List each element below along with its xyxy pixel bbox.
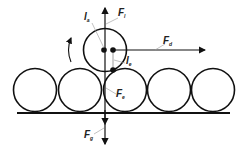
pivot-contact-dot bbox=[110, 67, 116, 73]
label-lever-arm-a: la bbox=[84, 11, 90, 23]
bed-particle bbox=[104, 69, 147, 112]
bed-particle bbox=[59, 69, 102, 112]
center-of-mass-dot bbox=[101, 47, 107, 53]
force-application-dot bbox=[110, 47, 116, 53]
bed-particle bbox=[14, 69, 57, 112]
particle-force-diagram: la Fl Fd le Fe Fg bbox=[0, 0, 242, 152]
label-gravity-force: Fg bbox=[84, 129, 93, 141]
label-drag-force: Fd bbox=[163, 35, 173, 47]
leader-lines bbox=[92, 18, 165, 134]
label-contact-force: Fe bbox=[116, 88, 125, 100]
rotation-arrow-icon bbox=[69, 38, 72, 62]
bed-particle bbox=[192, 69, 235, 112]
label-lift-force: Fl bbox=[118, 7, 126, 19]
bed-particle bbox=[148, 69, 191, 112]
bed-particles bbox=[14, 69, 235, 112]
label-lever-arm-e: le bbox=[126, 55, 132, 67]
